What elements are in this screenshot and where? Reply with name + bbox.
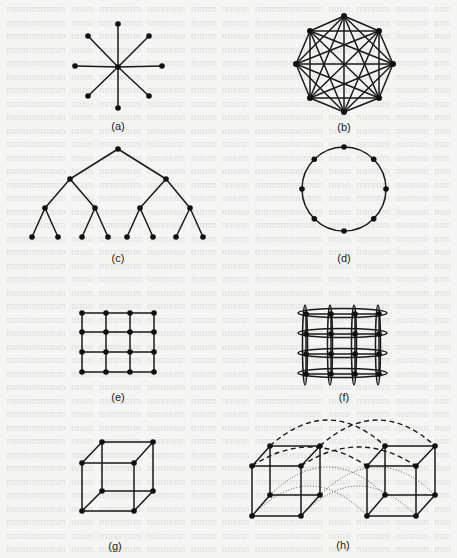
ring-panel [299, 144, 389, 234]
node [364, 513, 370, 519]
hypercube-panel [249, 420, 438, 519]
node [371, 216, 377, 222]
node [150, 439, 156, 445]
dotted-link [301, 486, 416, 516]
wraparound-row-link [298, 369, 387, 378]
edge [118, 66, 162, 67]
node [364, 463, 370, 469]
node [317, 443, 323, 449]
label-b: (b) [337, 121, 350, 133]
mesh-panel [79, 310, 157, 375]
edge [82, 442, 102, 463]
node [249, 463, 255, 469]
dashed-link [320, 420, 435, 446]
node [432, 492, 438, 498]
node [352, 311, 358, 317]
label-c: (c) [112, 252, 125, 264]
node [187, 205, 193, 211]
node [151, 329, 157, 335]
edge [118, 149, 166, 179]
label-e: (e) [111, 391, 124, 403]
binary-tree-panel [29, 146, 206, 240]
node [376, 351, 382, 357]
node [267, 443, 273, 449]
figure-page: mmmmmmm nnnn mmmmm nnnnnnn mmm nnnnn mmm… [0, 0, 457, 558]
edge [88, 67, 118, 96]
node [376, 371, 382, 377]
node [376, 28, 382, 34]
node [103, 310, 109, 316]
edge [118, 67, 149, 96]
edge [166, 179, 190, 208]
cube-panel [79, 439, 156, 514]
node [124, 234, 130, 240]
node [72, 63, 78, 69]
node [382, 443, 388, 449]
node [307, 95, 313, 101]
edge [118, 36, 149, 67]
edge [134, 442, 153, 463]
node [341, 228, 347, 234]
dashed-link [270, 420, 385, 446]
node [103, 369, 109, 375]
label-d: (d) [337, 252, 350, 264]
node [79, 349, 85, 355]
node [341, 13, 347, 19]
node [173, 234, 179, 240]
node [341, 144, 347, 150]
node [312, 216, 318, 222]
star-topology-panel [72, 21, 165, 111]
node [151, 349, 157, 355]
node [371, 157, 377, 163]
node [85, 93, 91, 99]
node [267, 492, 273, 498]
node [115, 146, 121, 152]
node [105, 234, 111, 240]
node [383, 186, 389, 192]
node [127, 310, 133, 316]
node [328, 311, 334, 317]
node [303, 371, 309, 377]
label-f: (f) [339, 391, 349, 403]
node [131, 460, 137, 466]
node [307, 28, 313, 34]
node [390, 61, 396, 67]
edge [82, 491, 102, 511]
dashed-link [301, 447, 416, 466]
node [103, 349, 109, 355]
node [303, 311, 309, 317]
node [376, 311, 382, 317]
node [85, 33, 91, 39]
edge [32, 208, 45, 237]
node [200, 234, 206, 240]
complete-graph-panel [293, 13, 396, 115]
node [79, 329, 85, 335]
edge [140, 208, 153, 237]
node [67, 176, 73, 182]
node [328, 371, 334, 377]
node [328, 351, 334, 357]
edge [70, 179, 95, 208]
node [79, 460, 85, 466]
node [42, 205, 48, 211]
node [99, 488, 105, 494]
node [298, 513, 304, 519]
node [131, 508, 137, 514]
node [150, 234, 156, 240]
node [413, 513, 419, 519]
node [79, 234, 85, 240]
node [376, 95, 382, 101]
node [382, 492, 388, 498]
edge [88, 36, 118, 67]
edge [367, 495, 385, 516]
wraparound-row-link [298, 329, 387, 338]
edge [252, 495, 270, 516]
torus-panel [298, 305, 387, 385]
node [127, 329, 133, 335]
label-h: (h) [336, 539, 349, 551]
interconnection-topologies-figure: (a) (b) (c) (d) (e) (f) (g) (h) [0, 0, 457, 558]
label-a: (a) [111, 120, 124, 132]
node [352, 351, 358, 357]
node [79, 508, 85, 514]
node [376, 331, 382, 337]
